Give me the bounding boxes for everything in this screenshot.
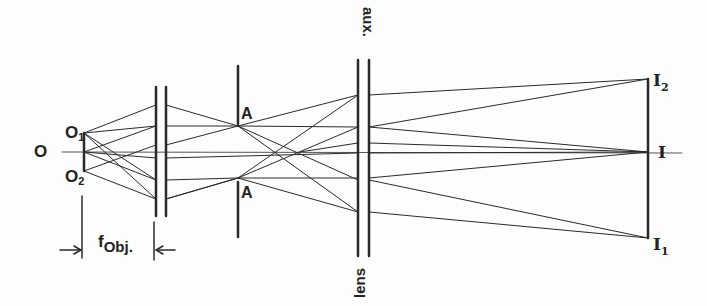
label-image: I <box>658 144 666 161</box>
label-image-point-2: I2 <box>653 72 669 89</box>
label-stop-upper: A <box>241 106 253 122</box>
label-focal-length: fObj. <box>98 233 133 250</box>
label-object-point-1: O1 <box>65 124 84 141</box>
label-object: O <box>34 143 47 160</box>
label-stop-lower: A <box>241 185 253 201</box>
label-object-point-2: O2 <box>65 168 84 185</box>
optical-diagram: O O1 O2 A A aux. lens I I2 I1 fObj. <box>0 0 707 306</box>
label-lens: lens <box>352 268 367 298</box>
label-image-point-1: I1 <box>653 236 669 253</box>
diagram-lines <box>0 0 707 306</box>
label-aux: aux. <box>361 7 376 37</box>
